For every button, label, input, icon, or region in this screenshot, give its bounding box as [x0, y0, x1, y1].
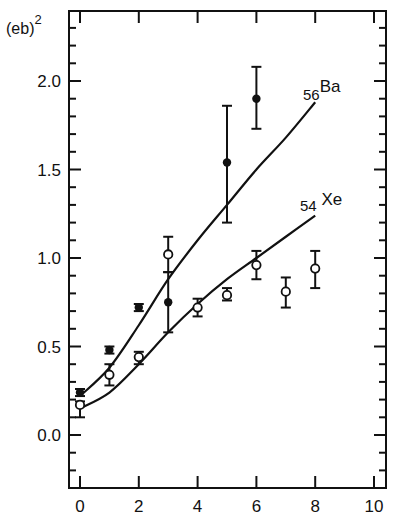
y-tick-label: 0.0 — [37, 426, 61, 445]
data-point-xe — [163, 237, 173, 272]
data-point-xe — [134, 352, 144, 364]
filled-circle-marker — [76, 388, 84, 396]
x-tick-label: 0 — [75, 497, 84, 516]
filled-circle-marker — [135, 303, 143, 311]
open-circle-marker — [76, 401, 84, 409]
y-tick-label: 1.5 — [37, 161, 61, 180]
data-point-ba — [222, 106, 232, 223]
data-point-xe — [281, 277, 291, 307]
y-tick-label: 0.5 — [37, 338, 61, 357]
x-tick-label: 2 — [134, 497, 143, 516]
fit-curves — [80, 102, 315, 408]
y-axis-title: (eb)2 — [6, 12, 42, 37]
x-tick-labels: 0246810 — [75, 497, 383, 516]
open-circle-marker — [105, 371, 113, 379]
open-circle-marker — [135, 353, 143, 361]
open-circle-marker — [193, 303, 201, 311]
filled-circle-marker — [105, 346, 113, 354]
series-label-xe: 54 Xe — [300, 190, 342, 214]
x-tick-label: 10 — [365, 497, 384, 516]
data-point-xe — [310, 251, 320, 288]
open-circle-marker — [164, 250, 172, 258]
chart: 0246810 0.00.51.01.52.0 (eb)2 56Ba54 Xe — [0, 0, 398, 520]
data-point-xe — [222, 288, 232, 300]
y-tick-label: 1.0 — [37, 249, 61, 268]
filled-circle-marker — [252, 95, 260, 103]
x-tick-label: 6 — [252, 497, 261, 516]
y-tick-label: 2.0 — [37, 72, 61, 91]
x-tick-label: 4 — [193, 497, 202, 516]
series-label-ba: 56Ba — [303, 77, 341, 103]
data-point-xe — [75, 401, 85, 418]
filled-circle-marker — [164, 298, 172, 306]
data-point-xe — [104, 364, 114, 385]
data-point-ba — [134, 303, 144, 311]
data-point-ba — [163, 272, 173, 332]
data-point-ba — [104, 346, 114, 354]
data-point-ba — [251, 67, 261, 129]
fit-curve-ba — [80, 102, 315, 396]
filled-circle-marker — [223, 158, 231, 166]
x-tick-label: 8 — [310, 497, 319, 516]
data-point-ba — [75, 388, 85, 396]
y-tick-labels: 0.00.51.01.52.0 — [37, 72, 61, 445]
open-circle-marker — [223, 291, 231, 299]
open-circle-marker — [282, 287, 290, 295]
open-circle-marker — [252, 261, 260, 269]
open-circle-marker — [311, 264, 319, 272]
series-labels: 56Ba54 Xe — [300, 77, 342, 214]
